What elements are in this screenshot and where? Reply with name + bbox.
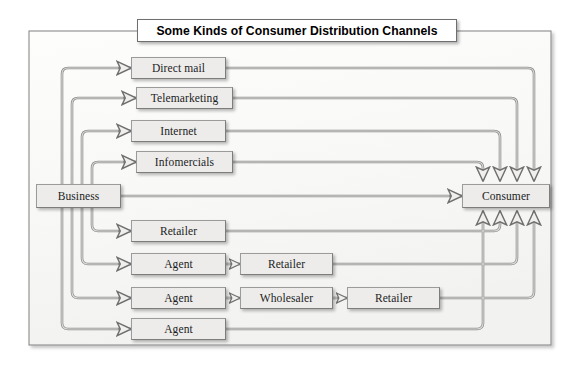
node-direct-mail-label: Direct mail — [152, 62, 205, 74]
node-agent-row8[interactable]: Agent — [131, 318, 226, 340]
node-infomercials-label: Infomercials — [155, 156, 214, 168]
node-internet-label: Internet — [160, 125, 197, 137]
diagram-stage: Some Kinds of Consumer Distribution Chan… — [0, 0, 578, 365]
node-retailer-row5[interactable]: Retailer — [131, 220, 226, 242]
node-retailer-row7[interactable]: Retailer — [347, 287, 440, 309]
diagram-title: Some Kinds of Consumer Distribution Chan… — [137, 19, 457, 42]
node-agent-row6[interactable]: Agent — [131, 253, 226, 275]
node-retailer-row7-label: Retailer — [375, 292, 412, 304]
node-telemarketing[interactable]: Telemarketing — [136, 87, 233, 109]
node-retailer-row5-label: Retailer — [160, 225, 197, 237]
node-consumer-label: Consumer — [482, 190, 530, 202]
node-consumer[interactable]: Consumer — [462, 184, 550, 208]
node-retailer-row6-label: Retailer — [268, 258, 305, 270]
node-business-label: Business — [58, 190, 100, 202]
node-agent-row7[interactable]: Agent — [131, 287, 226, 309]
node-business[interactable]: Business — [36, 184, 121, 208]
node-direct-mail[interactable]: Direct mail — [131, 57, 226, 79]
node-wholesaler-row7[interactable]: Wholesaler — [240, 287, 333, 309]
node-wholesaler-row7-label: Wholesaler — [260, 292, 313, 304]
node-agent-row6-label: Agent — [164, 258, 193, 270]
node-internet[interactable]: Internet — [131, 120, 226, 142]
diagram-canvas — [0, 0, 578, 365]
node-telemarketing-label: Telemarketing — [151, 92, 219, 104]
node-retailer-row6[interactable]: Retailer — [240, 253, 333, 275]
node-agent-row8-label: Agent — [164, 323, 193, 335]
node-infomercials[interactable]: Infomercials — [136, 151, 233, 173]
node-agent-row7-label: Agent — [164, 292, 193, 304]
